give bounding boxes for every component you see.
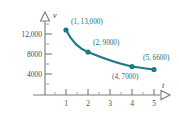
x-tick-label-2: 2	[86, 99, 90, 108]
x-tick-label-1: 1	[64, 99, 68, 108]
data-point-5	[151, 67, 156, 72]
y-axis-label: v	[53, 11, 57, 20]
x-axis-arrow-icon	[161, 91, 170, 100]
point-label-1: (1, 13,000)	[71, 18, 103, 26]
figure-container: 12,000 8000 4000 1 2 3 4 5 v t (1, 13,00…	[0, 0, 179, 122]
x-tick-label-3: 3	[108, 99, 112, 108]
y-axis-arrow-icon	[41, 12, 50, 21]
y-tick-label-4000: 4000	[27, 70, 42, 79]
point-label-4: (4, 7000)	[112, 73, 139, 81]
point-label-5: (5, 6600)	[143, 54, 170, 62]
data-point-4	[129, 64, 134, 69]
y-tick-label-8000: 8000	[27, 50, 42, 59]
data-curve	[66, 30, 154, 70]
chart-svg: 12,000 8000 4000 1 2 3 4 5 v t (1, 13,00…	[0, 0, 179, 122]
x-tick-label-5: 5	[152, 99, 156, 108]
x-tick-label-4: 4	[130, 99, 134, 108]
x-axis-label: t	[162, 81, 165, 90]
data-point-2	[85, 49, 90, 54]
point-label-2: (2, 9000)	[93, 39, 120, 47]
y-tick-label-12000: 12,000	[21, 30, 42, 39]
data-point-1	[63, 27, 68, 32]
